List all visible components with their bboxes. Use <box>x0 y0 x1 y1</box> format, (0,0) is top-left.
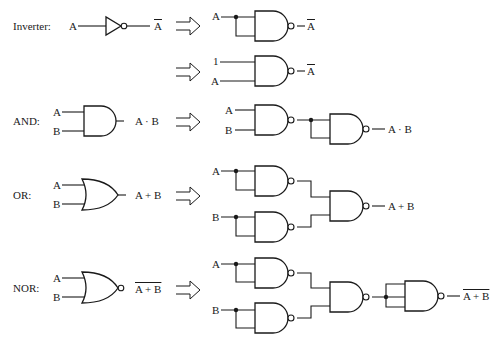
arrow-icon <box>176 187 200 205</box>
input-b: B <box>212 211 219 223</box>
input-one: 1 <box>213 55 219 67</box>
nor-nand-equivalent <box>221 258 460 333</box>
input-b: B <box>53 291 60 303</box>
input-a: A <box>212 258 220 270</box>
nor-original <box>62 272 124 303</box>
input-b: B <box>225 124 232 136</box>
arrow-icon <box>176 281 200 299</box>
inverter-nand-one <box>220 56 305 86</box>
or-nand-equivalent <box>221 166 385 242</box>
and-nand-equivalent <box>235 105 385 144</box>
row-label-or: OR: <box>13 189 31 201</box>
input-a: A <box>212 10 220 22</box>
inverter-original <box>78 17 150 35</box>
input-a: A <box>212 165 220 177</box>
output-a-and-b: A · B <box>388 123 412 135</box>
output-a-and-b: A · B <box>135 115 159 127</box>
row-label-nor: NOR: <box>13 282 39 294</box>
inverter-nand-tied <box>221 11 305 41</box>
row-label-and: AND: <box>13 115 40 127</box>
and-original <box>62 106 124 136</box>
input-b: B <box>53 198 60 210</box>
arrow-icon <box>176 63 200 81</box>
input-a: A <box>53 272 61 284</box>
arrow-icon <box>176 17 200 35</box>
output-not-a: A <box>307 65 315 77</box>
input-a: A <box>211 75 219 87</box>
or-original <box>62 179 126 210</box>
input-b: B <box>212 304 219 316</box>
input-a: A <box>69 20 77 32</box>
input-a: A <box>53 106 61 118</box>
output-a-or-b: A + B <box>135 189 161 201</box>
input-b: B <box>53 125 60 137</box>
row-label-inverter: Inverter: <box>13 20 51 32</box>
output-not-a: A <box>307 20 315 32</box>
output-a-or-b: A + B <box>388 200 414 212</box>
output-not-a: A <box>154 20 162 32</box>
logic-diagram <box>0 0 498 342</box>
output-a-nor-b: A + B <box>135 283 161 295</box>
input-a: A <box>53 179 61 191</box>
output-a-nor-b: A + B <box>463 290 489 302</box>
input-a: A <box>225 104 233 116</box>
arrow-icon <box>176 113 200 131</box>
